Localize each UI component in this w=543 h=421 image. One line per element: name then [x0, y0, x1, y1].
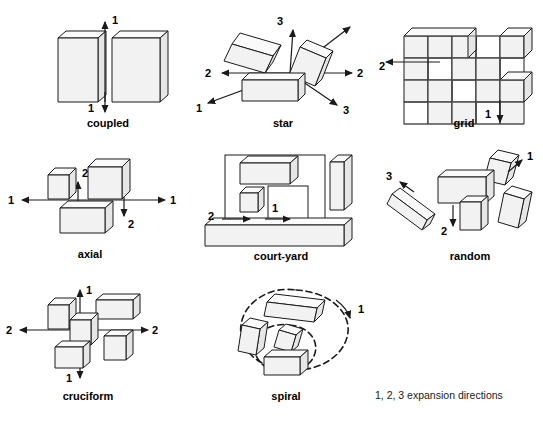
block [238, 318, 268, 355]
block [60, 201, 113, 233]
block [240, 156, 298, 184]
direction-label: 1 [272, 202, 278, 214]
block [112, 31, 168, 102]
block [264, 294, 325, 322]
direction-label: 1 [358, 303, 364, 315]
block [264, 350, 308, 375]
figure-caption: 1, 2, 3 expansion directions [375, 389, 503, 401]
pattern-label-spiral: spiral [271, 390, 300, 402]
direction-label: 2 [357, 67, 363, 79]
direction-label: 3 [277, 15, 283, 27]
block [498, 186, 532, 228]
block [104, 330, 133, 360]
block [224, 33, 281, 73]
pattern-axial: 1 1 2 2 axial [8, 159, 176, 260]
pattern-spiral: 1 spiral [238, 289, 364, 402]
pattern-random: 1 3 2 random [386, 150, 533, 262]
block [58, 31, 106, 102]
direction-label: 3 [386, 170, 392, 182]
direction-label: 1 [86, 284, 92, 296]
pattern-star: 3 2 2 1 3 star [196, 15, 363, 129]
block [274, 324, 303, 352]
block [70, 313, 98, 345]
direction-label: 1 [66, 372, 72, 384]
pattern-coupled: 1 1 coupled [58, 14, 168, 129]
pattern-label-grid: grid [454, 117, 475, 129]
pattern-label-star: star [273, 117, 294, 129]
pattern-courtyard: 2 1 court-yard [205, 155, 352, 262]
direction-label: 1 [170, 194, 176, 206]
direction-label: 1 [485, 108, 491, 120]
direction-label: 1 [112, 14, 118, 26]
block [205, 218, 352, 246]
direction-label: 1 [88, 102, 94, 114]
block [242, 73, 305, 101]
direction-label: 3 [343, 104, 349, 116]
direction-label: 2 [205, 67, 211, 79]
direction-label: 2 [128, 218, 134, 230]
block [55, 341, 90, 368]
direction-label: 1 [527, 150, 533, 162]
direction-label: 1 [8, 194, 14, 206]
pattern-label-axial: axial [78, 248, 102, 260]
pattern-label-coupled: coupled [87, 117, 129, 129]
block [48, 168, 76, 199]
pattern-label-courtyard: court-yard [254, 250, 308, 262]
block [387, 188, 435, 230]
block [96, 294, 140, 319]
block [460, 196, 488, 230]
pattern-label-cruciform: cruciform [63, 390, 114, 402]
pattern-label-random: random [450, 250, 491, 262]
direction-label: 2 [208, 210, 214, 222]
direction-label: 2 [441, 225, 447, 237]
direction-label: 1 [196, 102, 202, 114]
direction-label: 2 [82, 167, 88, 179]
block [240, 187, 264, 212]
pattern-grid: 2 1 grid [379, 28, 532, 129]
expansion-patterns-diagram: 1 1 coupled [0, 0, 543, 421]
direction-label: 2 [379, 60, 385, 72]
pattern-cruciform: 1 2 2 1 cruciform [6, 284, 158, 402]
direction-label: 2 [152, 324, 158, 336]
direction-label: 2 [6, 324, 12, 336]
block [88, 159, 130, 199]
figure-sheet: 1 1 coupled [0, 0, 543, 421]
block [330, 155, 352, 210]
